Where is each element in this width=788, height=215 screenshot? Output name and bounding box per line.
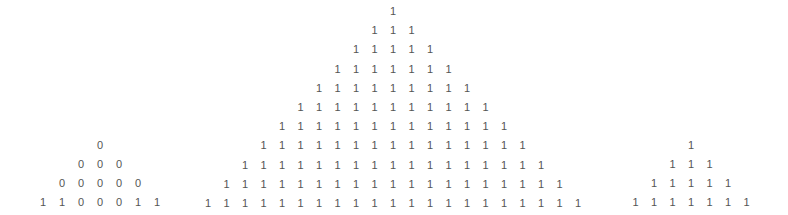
triangle-cell: 1 [684,196,698,208]
triangle-cell: 1 [740,196,754,208]
triangle-cell: 1 [721,177,735,189]
triangle-cell: 1 [629,196,643,208]
triangle-cell: 1 [666,177,680,189]
triangle-cell: 1 [684,177,698,189]
triangle-right: 1111111111111111 [0,0,788,215]
triangle-cell: 1 [703,177,717,189]
triangle-cell: 1 [703,196,717,208]
triangle-cell: 1 [684,139,698,151]
triangle-cell: 1 [647,177,661,189]
triangle-cell: 1 [703,158,717,170]
triangle-cell: 1 [647,196,661,208]
triangle-cell: 1 [666,196,680,208]
triangle-cell: 1 [721,196,735,208]
triangle-cell: 1 [684,158,698,170]
triangle-cell: 1 [666,158,680,170]
